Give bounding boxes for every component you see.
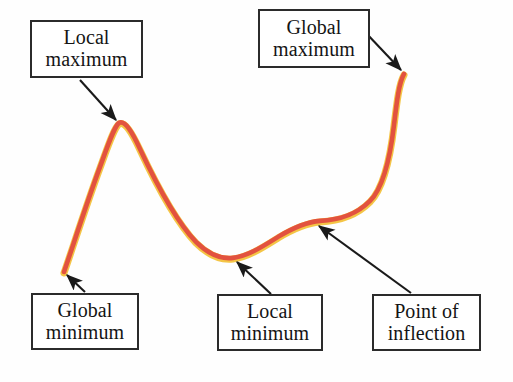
- callout-global-minimum-line-1: Global: [57, 300, 112, 322]
- callout-local-maximum-line-2: maximum: [46, 49, 128, 71]
- callout-local-maximum-line-1: Local: [63, 27, 109, 49]
- callout-global-maximum-line-1: Global: [286, 17, 341, 39]
- arrow-local-minimum: [237, 262, 271, 294]
- callout-local-minimum: Local minimum: [217, 294, 323, 351]
- arrow-local-maximum: [80, 80, 116, 120]
- callout-global-minimum-line-2: minimum: [46, 322, 124, 344]
- callout-point-of-inflection-line-1: Point of: [394, 301, 459, 323]
- arrow-global-minimum: [67, 275, 85, 292]
- callout-point-of-inflection-line-2: inflection: [388, 323, 466, 345]
- callout-local-maximum: Local maximum: [30, 20, 143, 78]
- arrow-point-of-inflection: [319, 226, 411, 293]
- figure-root: Local maximum Global maximum Global mini…: [0, 0, 513, 382]
- annotated-function-curve: [64, 74, 404, 272]
- callout-global-maximum-line-2: maximum: [273, 39, 355, 61]
- callout-global-minimum: Global minimum: [31, 293, 139, 350]
- callout-global-maximum: Global maximum: [258, 9, 370, 68]
- callout-point-of-inflection: Point of inflection: [372, 294, 481, 351]
- arrow-global-maximum: [366, 33, 401, 70]
- callout-local-minimum-line-2: minimum: [231, 323, 309, 345]
- curve-highlight-stroke: [64, 75, 404, 273]
- callout-local-minimum-line-1: Local: [247, 301, 293, 323]
